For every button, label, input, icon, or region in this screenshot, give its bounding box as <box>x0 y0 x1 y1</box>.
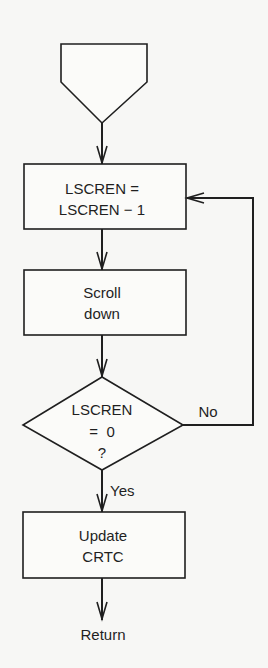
yes-label: Yes <box>110 482 134 499</box>
decrement-line-1: LSCREN = <box>65 180 139 197</box>
update-line-1: Update <box>79 527 127 544</box>
update-line-2: CRTC <box>82 548 124 565</box>
scroll-line-1: Scroll <box>83 284 121 301</box>
process-decrement-lscren: LSCREN = LSCREN − 1 <box>24 164 186 229</box>
no-label: No <box>198 403 217 420</box>
start-connector <box>61 44 147 123</box>
arrow-to-return <box>97 578 107 620</box>
decrement-line-2: LSCREN − 1 <box>59 201 145 218</box>
arrow-decrement-to-scroll <box>97 229 107 270</box>
arrow-scroll-to-check <box>97 335 107 377</box>
return-label: Return <box>80 626 125 643</box>
scroll-line-2: down <box>84 305 120 322</box>
flowchart: LSCREN = LSCREN − 1 Scroll down LSCREN =… <box>0 0 268 668</box>
check-line-1: LSCREN <box>72 401 133 418</box>
process-scroll-down: Scroll down <box>24 270 186 335</box>
process-update-crtc: Update CRTC <box>23 512 185 578</box>
check-line-3: ? <box>98 444 106 461</box>
arrow-no-loop <box>183 193 253 425</box>
arrow-start-to-decrement <box>97 123 107 164</box>
check-line-2: = 0 <box>89 423 114 440</box>
arrow-yes <box>97 470 107 512</box>
decision-lscren-zero: LSCREN = 0 ? <box>23 377 183 470</box>
